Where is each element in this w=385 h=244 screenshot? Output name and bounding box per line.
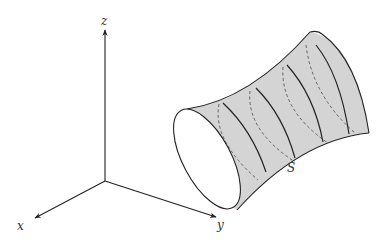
x-axis: [35, 181, 105, 218]
surface-label: S: [287, 161, 295, 175]
y-axis-label: y: [216, 218, 224, 232]
diagram-canvas: z x y S: [0, 0, 385, 244]
x-axis-label: x: [17, 219, 24, 233]
surface-s: S: [160, 31, 369, 218]
z-axis-label: z: [100, 14, 108, 28]
